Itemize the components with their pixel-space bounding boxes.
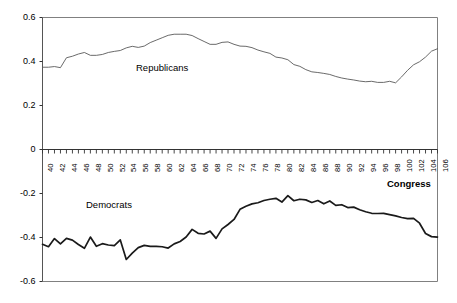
x-tick-label: 102 (417, 159, 426, 172)
x-tick-label: 62 (177, 163, 186, 171)
y-tick-label: -0.6 (10, 276, 36, 286)
x-tick-label: 60 (165, 163, 174, 171)
plot-area (0, 0, 457, 303)
x-tick-label: 56 (141, 163, 150, 171)
x-tick-label: 82 (297, 163, 306, 171)
y-tick-label: -0.2 (10, 188, 36, 198)
x-tick-label: 64 (189, 163, 198, 171)
chart-container: Mean DW-Nominate Score 0.60.40.20-0.2-0.… (0, 0, 457, 303)
x-tick-label: 52 (118, 163, 127, 171)
x-tick-label: 70 (225, 163, 234, 171)
y-tick-label: 0 (10, 144, 36, 154)
x-tick-label: 96 (381, 163, 390, 171)
x-tick-label: 92 (357, 163, 366, 171)
x-tick-label: 54 (129, 163, 138, 171)
series-label-republicans: Republicans (136, 62, 188, 73)
x-tick-label: 50 (106, 163, 115, 171)
x-tick-label: 78 (273, 163, 282, 171)
series-lines (43, 34, 438, 259)
x-tick-label: 76 (261, 163, 270, 171)
x-tick-label: 42 (58, 163, 67, 171)
x-tick-label: 68 (213, 163, 222, 171)
x-tick-label: 58 (153, 163, 162, 171)
x-tick-label: 98 (393, 163, 402, 171)
x-tick-label: 94 (369, 163, 378, 171)
x-tick-label: 90 (345, 163, 354, 171)
x-tick-label: 100 (405, 159, 414, 172)
x-tick-label: 66 (201, 163, 210, 171)
x-tick-label: 84 (309, 163, 318, 171)
y-tick-label: 0.6 (10, 12, 36, 22)
x-tick-label: 106 (441, 159, 450, 172)
x-tick-label: 44 (70, 163, 79, 171)
series-label-democrats: Democrats (86, 199, 132, 210)
x-tick-label: 72 (237, 163, 246, 171)
series-line-republicans (43, 34, 438, 83)
x-tick-label: 80 (285, 163, 294, 171)
x-axis-title: Congress (387, 178, 431, 189)
y-tick-label: 0.2 (10, 100, 36, 110)
y-tick-label: 0.4 (10, 56, 36, 66)
x-tick-label: 46 (82, 163, 91, 171)
x-tick-label: 74 (249, 163, 258, 171)
x-tick-label: 48 (94, 163, 103, 171)
x-tick-label: 86 (321, 163, 330, 171)
x-tick-label: 104 (429, 159, 438, 172)
x-tick-label: 88 (333, 163, 342, 171)
y-tick-label: -0.4 (10, 232, 36, 242)
x-tick-label: 40 (46, 163, 55, 171)
